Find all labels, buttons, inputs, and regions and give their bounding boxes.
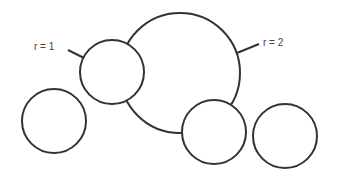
circle-left	[22, 89, 86, 153]
leader-line-large	[237, 44, 259, 53]
circles-diagram: r = 1 r = 2	[0, 0, 338, 177]
small-circle-top	[80, 40, 144, 104]
label-r1: r = 1	[34, 41, 55, 52]
leader-line-small	[68, 50, 84, 58]
circle-bottom-middle	[182, 100, 246, 164]
circle-right	[253, 104, 317, 168]
label-r2: r = 2	[263, 37, 284, 48]
